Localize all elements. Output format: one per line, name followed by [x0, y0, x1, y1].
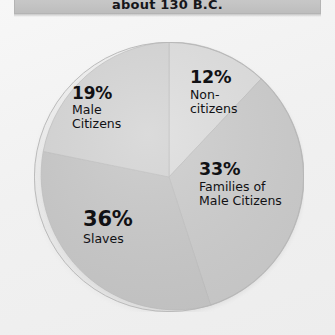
pie-label-families-of-male-citizens: 33% Families of Male Citizens [199, 160, 282, 208]
pie-label-male-citizens-name: Male Citizens [72, 103, 121, 131]
chart-title-banner: about 130 B.C. [14, 0, 321, 14]
pie-label-male-citizens-percent: 19% [72, 84, 121, 103]
pie-label-families-percent: 33% [199, 160, 282, 180]
pie-label-families-name: Families of Male Citizens [199, 180, 282, 208]
pie-chart-figure: about 130 B.C. [0, 0, 335, 335]
pie-label-male-citizens: 19% Male Citizens [72, 84, 121, 131]
chart-title: about 130 B.C. [15, 0, 320, 12]
pie-label-slaves-name: Slaves [83, 232, 133, 246]
banner-shadow [14, 14, 321, 17]
pie-label-slaves-percent: 36% [83, 208, 133, 232]
pie-label-noncitizens-name: Non- citizens [190, 88, 237, 116]
pie-label-noncitizens-percent: 12% [190, 68, 237, 88]
pie-label-slaves: 36% Slaves [83, 208, 133, 246]
pie-label-noncitizens: 12% Non- citizens [190, 68, 237, 116]
